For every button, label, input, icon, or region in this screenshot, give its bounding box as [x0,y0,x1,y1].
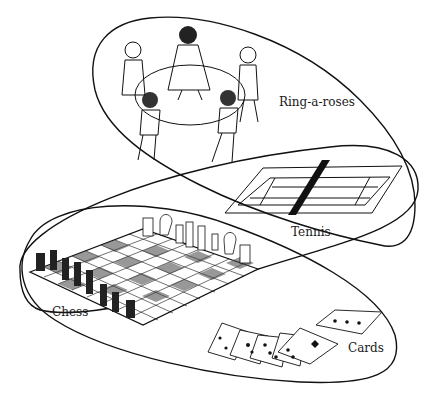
playing-cards-illustration [208,310,382,367]
label-tennis: Tennis [291,225,331,239]
label-cards: Cards [348,341,384,355]
label-chess: Chess [52,305,88,319]
label-ring-a-roses: Ring-a-roses [279,95,355,109]
tennis-court-illustration [225,160,402,215]
ring-a-roses-illustration [122,26,258,162]
games-diagram: Ring-a-roses Tennis [0,0,429,396]
